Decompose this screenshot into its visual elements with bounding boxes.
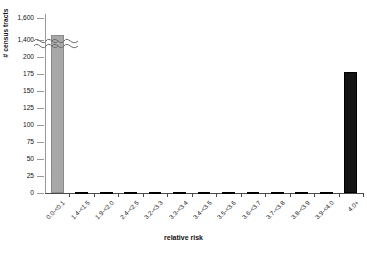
x-tick-label: 3.9-<4.0: [308, 199, 336, 227]
x-tick: [339, 193, 340, 197]
y-tick-label: 100: [4, 121, 34, 128]
x-tick-label: 3.4-<3.5: [185, 199, 213, 227]
y-tick-label: 150: [4, 87, 34, 94]
x-tick: [192, 193, 193, 197]
y-tick: [37, 193, 44, 194]
x-tick: [314, 193, 315, 197]
x-tick: [241, 193, 242, 197]
x-tick-label: 3.2-<3.3: [136, 199, 164, 227]
y-tick: [37, 74, 44, 75]
y-tick: [37, 91, 44, 92]
bar[interactable]: [271, 192, 284, 194]
x-tick: [167, 193, 168, 197]
y-tick: [37, 125, 44, 126]
bar[interactable]: [124, 192, 137, 194]
x-tick-label: 1.9-<2.0: [88, 199, 116, 227]
y-tick: [37, 142, 44, 143]
bar[interactable]: [222, 192, 235, 194]
y-tick-label: 1,400: [4, 36, 34, 43]
y-tick-label: 175: [4, 70, 34, 77]
bar[interactable]: [75, 192, 88, 194]
x-tick-label: 3.8-<3.9: [283, 199, 311, 227]
y-tick: [37, 18, 44, 19]
y-tick-label: 75: [4, 138, 34, 145]
bar-break-icon: [52, 32, 78, 50]
x-tick: [216, 193, 217, 197]
x-tick-label: 1.4-<1.5: [63, 199, 91, 227]
x-tick-label: 3.7-<3.8: [259, 199, 287, 227]
y-tick: [37, 176, 44, 177]
x-tick-label: 4.0+: [332, 199, 360, 227]
x-tick: [118, 193, 119, 197]
y-tick: [37, 108, 44, 109]
bar[interactable]: [173, 192, 186, 194]
x-tick: [265, 193, 266, 197]
x-tick: [69, 193, 70, 197]
y-tick-label: 50: [4, 155, 34, 162]
chart-container: # census tracts 02550751001251501752001,…: [0, 0, 367, 253]
x-tick-label: 2.4-<2.5: [112, 199, 140, 227]
bar[interactable]: [100, 192, 113, 194]
x-tick-label: 3.3-<3.4: [161, 199, 189, 227]
bar[interactable]: [198, 192, 211, 194]
y-tick-label: 200: [4, 53, 34, 60]
x-tick-label: 0.0-<0.1: [39, 199, 67, 227]
x-tick: [143, 193, 144, 197]
y-tick-label: 0: [4, 189, 34, 196]
bar[interactable]: [344, 72, 357, 193]
x-tick: [363, 193, 364, 197]
bar[interactable]: [51, 35, 64, 194]
y-tick: [37, 57, 44, 58]
bar[interactable]: [149, 192, 162, 194]
x-tick: [290, 193, 291, 197]
x-tick-label: 3.6-<3.7: [234, 199, 262, 227]
y-tick-label: 25: [4, 172, 34, 179]
bar[interactable]: [247, 192, 260, 194]
y-tick-label: 1,600: [4, 14, 34, 21]
y-tick: [37, 159, 44, 160]
bar[interactable]: [320, 192, 333, 194]
y-tick-label: 125: [4, 104, 34, 111]
x-tick-label: 3.5-<3.6: [210, 199, 238, 227]
bar[interactable]: [295, 192, 308, 194]
x-axis-title: relative risk: [0, 234, 367, 241]
x-tick: [94, 193, 95, 197]
